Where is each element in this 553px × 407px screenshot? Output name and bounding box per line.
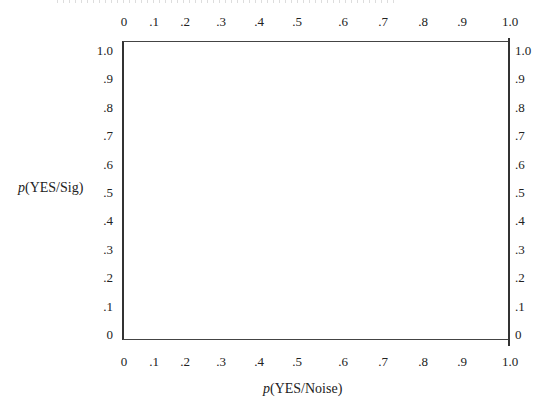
x-axis-title-var: p bbox=[263, 381, 270, 396]
x-tick-label-bottom: .9 bbox=[457, 355, 467, 368]
x-tick-label-bottom: .6 bbox=[338, 355, 348, 368]
y-tick-label-right: .1 bbox=[515, 300, 525, 313]
x-tick-label-bottom: .1 bbox=[149, 355, 159, 368]
x-tick-label-bottom: .2 bbox=[180, 355, 190, 368]
right-axis-line bbox=[508, 38, 510, 346]
y-tick-label-right: .8 bbox=[515, 101, 525, 114]
y-tick-label-left: .1 bbox=[103, 300, 113, 313]
x-tick-label-top: .4 bbox=[254, 15, 264, 28]
y-tick-label-left: .8 bbox=[103, 101, 113, 114]
y-tick-label-left: 1.0 bbox=[97, 44, 113, 57]
x-tick-label-bottom: .5 bbox=[292, 355, 302, 368]
plot-area bbox=[122, 41, 510, 340]
x-tick-label-top: .3 bbox=[216, 15, 226, 28]
x-tick-label-top: .7 bbox=[378, 15, 388, 28]
y-tick-label-left: .9 bbox=[103, 72, 113, 85]
y-axis-title-rest: (YES/Sig) bbox=[25, 180, 83, 195]
y-tick-label-left: .3 bbox=[103, 243, 113, 256]
x-tick-label-bottom: .3 bbox=[216, 355, 226, 368]
y-axis-title: p(YES/Sig) bbox=[18, 181, 83, 195]
x-tick-label-top: 1.0 bbox=[502, 15, 518, 28]
y-tick-label-right: .4 bbox=[515, 214, 525, 227]
x-tick-label-bottom: .8 bbox=[418, 355, 428, 368]
y-tick-label-right: .2 bbox=[515, 271, 525, 284]
x-tick-label-top: .5 bbox=[292, 15, 302, 28]
x-tick-label-top: .8 bbox=[418, 15, 428, 28]
clipped-caption-text bbox=[0, 0, 553, 3]
y-tick-label-right: .6 bbox=[515, 158, 525, 171]
y-tick-label-left: 0 bbox=[107, 328, 114, 341]
clipped-caption-line bbox=[55, 0, 395, 3]
y-tick-label-left: .6 bbox=[103, 158, 113, 171]
x-tick-label-top: 0 bbox=[121, 15, 128, 28]
x-axis-title-rest: (YES/Noise) bbox=[270, 381, 342, 396]
y-axis-title-var: p bbox=[18, 180, 25, 195]
y-tick-label-right: .3 bbox=[515, 243, 525, 256]
y-tick-label-right: .5 bbox=[515, 186, 525, 199]
y-tick-label-left: .7 bbox=[103, 129, 113, 142]
x-tick-label-bottom: .7 bbox=[378, 355, 388, 368]
x-tick-label-top: .6 bbox=[338, 15, 348, 28]
y-tick-label-right: .9 bbox=[515, 72, 525, 85]
y-tick-label-right: 0 bbox=[515, 328, 522, 341]
y-tick-label-right: 1.0 bbox=[515, 44, 531, 57]
x-tick-label-bottom: 0 bbox=[121, 355, 128, 368]
y-tick-label-left: .5 bbox=[103, 186, 113, 199]
y-tick-label-right: .7 bbox=[515, 129, 525, 142]
x-tick-label-top: .9 bbox=[457, 15, 467, 28]
x-tick-label-bottom: 1.0 bbox=[502, 355, 518, 368]
y-tick-label-left: .4 bbox=[103, 214, 113, 227]
x-axis-title: p(YES/Noise) bbox=[263, 382, 342, 396]
x-tick-label-top: .2 bbox=[180, 15, 190, 28]
y-tick-label-left: .2 bbox=[103, 271, 113, 284]
x-tick-label-top: .1 bbox=[149, 15, 159, 28]
x-tick-label-bottom: .4 bbox=[254, 355, 264, 368]
